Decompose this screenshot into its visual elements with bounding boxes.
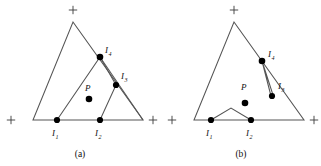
vertex-i3-label: I3 <box>277 81 284 93</box>
panel-b: I1I2I3I4P(b) <box>161 0 321 166</box>
inner-polyline <box>211 108 251 120</box>
vertex-i1 <box>54 117 60 123</box>
vertex-i2 <box>248 117 254 123</box>
vertex-i1-label: I1 <box>205 128 212 140</box>
vertex-i1-label: I1 <box>51 128 58 140</box>
vertex-i2-label-subscript: 2 <box>249 134 252 140</box>
vertex-i4-label: I4 <box>104 45 111 57</box>
vertex-i3-label-subscript: 3 <box>280 87 284 93</box>
edge-wedge-i4-i3 <box>262 61 273 96</box>
panel-a-caption: (a) <box>75 149 86 160</box>
vertex-i4 <box>259 58 266 65</box>
vertex-i3 <box>113 82 119 88</box>
point-p-label: P <box>84 83 91 93</box>
panel-b-diagram: I1I2I3I4P(b) <box>161 0 321 166</box>
vertex-i4-label: I4 <box>267 49 274 61</box>
vertex-i2-label-subscript: 2 <box>98 134 101 140</box>
vertex-i4 <box>97 54 104 61</box>
point-p <box>242 100 249 107</box>
outer-triangle <box>194 22 304 120</box>
plus-marker-apex <box>230 6 238 14</box>
vertex-i1-label-subscript: 1 <box>55 134 58 140</box>
vertex-i2-label: I2 <box>94 128 101 140</box>
vertex-i4-label-subscript: 4 <box>271 55 274 61</box>
plus-marker-bottom-left <box>7 116 15 124</box>
outer-triangle <box>33 22 143 120</box>
plus-marker-apex <box>69 6 77 14</box>
point-p-label: P <box>240 82 247 92</box>
vertex-i3-label-subscript: 3 <box>123 77 127 83</box>
vertex-i4-label-subscript: 4 <box>108 51 111 57</box>
vertex-i1-label-subscript: 1 <box>209 134 212 140</box>
figure-container: I1I2I3I4P(a) I1I2I3I4P(b) <box>0 0 321 166</box>
panel-b-caption: (b) <box>235 149 246 160</box>
vertex-i2 <box>97 117 103 123</box>
plus-marker-bottom-left <box>168 116 176 124</box>
vertex-i3 <box>269 93 275 99</box>
vertex-i2-label: I2 <box>245 128 252 140</box>
edge-i4-to-bottom-right <box>100 57 143 120</box>
panel-a-diagram: I1I2I3I4P(a) <box>0 0 160 166</box>
vertex-i1 <box>208 117 214 123</box>
plus-marker-bottom-right <box>310 116 318 124</box>
vertex-i3-label: I3 <box>120 71 127 83</box>
plus-marker-bottom-right <box>149 116 157 124</box>
panel-a: I1I2I3I4P(a) <box>0 0 160 166</box>
point-p <box>86 96 93 103</box>
